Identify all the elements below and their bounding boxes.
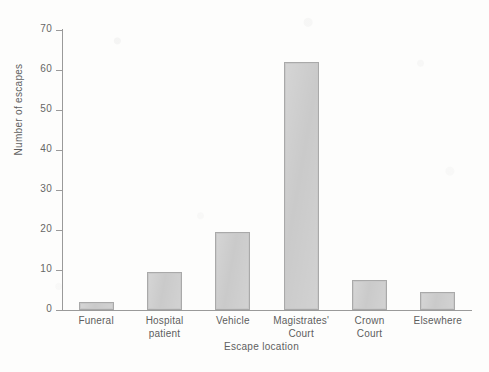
y-axis-tick-label: 70 bbox=[6, 23, 52, 34]
bar bbox=[420, 292, 455, 310]
bar bbox=[147, 272, 182, 310]
bar-sheen bbox=[81, 304, 112, 308]
plot-area bbox=[62, 30, 472, 310]
y-axis-tick-label: 0 bbox=[6, 303, 52, 314]
chart-page: 010203040506070 Number of escapes Escape… bbox=[0, 0, 489, 372]
y-axis-tick-label: 20 bbox=[6, 223, 52, 234]
y-axis-tick-label: 30 bbox=[6, 183, 52, 194]
x-axis-category-label: Elsewhere bbox=[398, 315, 478, 328]
y-axis-tick bbox=[56, 310, 62, 311]
bar-sheen bbox=[354, 282, 385, 308]
bar-sheen bbox=[422, 294, 453, 308]
bar-sheen bbox=[286, 64, 317, 308]
bar bbox=[215, 232, 250, 310]
x-axis-title: Escape location bbox=[0, 341, 489, 352]
bar-sheen bbox=[217, 234, 248, 308]
y-axis-tick-label: 10 bbox=[6, 263, 52, 274]
bar bbox=[284, 62, 319, 310]
y-axis-title: Number of escapes bbox=[13, 50, 24, 170]
x-axis-category-label-line: Elsewhere bbox=[398, 315, 478, 328]
x-axis-line bbox=[62, 310, 472, 311]
bar bbox=[352, 280, 387, 310]
bar-sheen bbox=[149, 274, 180, 308]
bar bbox=[79, 302, 114, 310]
x-axis-category-label-line: Court bbox=[330, 328, 410, 341]
x-axis-category-label-line: patient bbox=[125, 328, 205, 341]
